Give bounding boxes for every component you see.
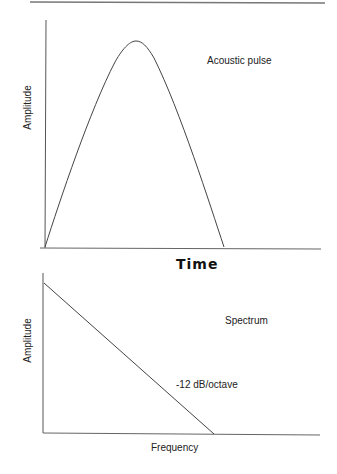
pulse-y-axis bbox=[45, 20, 46, 248]
top-rule bbox=[30, 2, 325, 3]
spectrum-x-label: Frequency bbox=[151, 442, 198, 453]
pulse-curve bbox=[45, 41, 224, 247]
spectrum-x-axis bbox=[43, 433, 320, 435]
pulse-title: Acoustic pulse bbox=[207, 55, 271, 66]
diagram-canvas bbox=[0, 0, 337, 474]
pulse-x-axis bbox=[40, 248, 321, 249]
spectrum-rolloff-line bbox=[44, 283, 214, 434]
pulse-x-label: Time bbox=[176, 256, 218, 272]
rolloff-annotation: -12 dB/octave bbox=[176, 379, 238, 390]
spectrum-title: Spectrum bbox=[225, 315, 268, 326]
pulse-y-label: Amplitude bbox=[22, 83, 33, 133]
spectrum-y-label: Amplitude bbox=[22, 316, 33, 366]
